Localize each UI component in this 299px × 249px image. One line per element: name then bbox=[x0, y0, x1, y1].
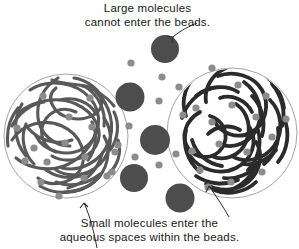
small-molecule bbox=[208, 64, 215, 71]
small-molecule bbox=[39, 92, 46, 99]
small-molecule bbox=[43, 158, 50, 165]
small-molecule bbox=[127, 59, 134, 66]
small-molecule bbox=[243, 148, 250, 155]
small-molecule bbox=[80, 174, 87, 181]
small-molecule bbox=[155, 97, 162, 104]
small-molecule bbox=[155, 161, 162, 168]
small-molecule bbox=[175, 83, 182, 90]
small-molecules-caption: Small molecules enter the aqueous spaces… bbox=[0, 217, 299, 244]
large-caption-line-2: cannot enter the beads. bbox=[0, 16, 295, 30]
small-molecule bbox=[21, 157, 28, 164]
large-molecule bbox=[166, 184, 195, 213]
small-molecule bbox=[192, 104, 199, 111]
small-molecule bbox=[208, 118, 215, 125]
small-molecule bbox=[258, 168, 265, 175]
leader-small-left-bead-arrowhead bbox=[80, 203, 88, 208]
small-molecule bbox=[227, 178, 234, 185]
small-caption-line-1: Small molecules enter the bbox=[0, 217, 299, 231]
small-molecule bbox=[13, 124, 20, 131]
large-molecule bbox=[116, 83, 145, 112]
small-molecule bbox=[88, 123, 95, 130]
small-molecule bbox=[172, 150, 179, 157]
small-molecule bbox=[196, 166, 203, 173]
small-molecule bbox=[111, 148, 118, 155]
small-molecule bbox=[262, 92, 269, 99]
small-caption-line-2: aqueous spaces within the beads. bbox=[0, 231, 299, 245]
small-molecule bbox=[114, 141, 121, 148]
small-molecule bbox=[252, 113, 259, 120]
small-molecule bbox=[61, 139, 68, 146]
small-molecule bbox=[268, 133, 275, 140]
large-molecule bbox=[120, 164, 148, 192]
right-bead bbox=[167, 68, 297, 198]
small-molecule bbox=[55, 192, 62, 199]
small-molecule bbox=[188, 147, 195, 154]
large-caption-line-1: Large molecules bbox=[0, 2, 295, 16]
small-molecule bbox=[215, 140, 222, 147]
small-molecule bbox=[158, 73, 165, 80]
left-bead bbox=[4, 74, 128, 198]
small-molecule bbox=[30, 144, 37, 151]
small-molecule bbox=[234, 81, 241, 88]
large-molecules-caption: Large molecules cannot enter the beads. bbox=[0, 2, 299, 29]
small-molecule bbox=[81, 153, 88, 160]
small-molecule bbox=[179, 111, 186, 118]
gel-filtration-figure: Large molecules cannot enter the beads. … bbox=[0, 0, 299, 249]
small-molecule bbox=[65, 113, 72, 120]
small-molecule bbox=[131, 153, 138, 160]
small-molecule bbox=[282, 115, 289, 122]
small-molecule bbox=[228, 101, 235, 108]
small-molecule bbox=[37, 178, 44, 185]
large-molecule bbox=[151, 35, 179, 63]
diagram-canvas bbox=[0, 0, 299, 249]
large-molecule bbox=[140, 125, 170, 155]
small-molecule bbox=[103, 172, 110, 179]
small-molecule bbox=[125, 122, 132, 129]
small-molecule bbox=[86, 94, 93, 101]
